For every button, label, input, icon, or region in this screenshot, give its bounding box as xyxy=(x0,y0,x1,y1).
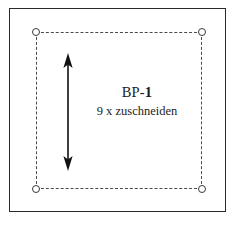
piece-label-block: BP-1 9 x zuschneiden xyxy=(78,84,196,119)
pattern-sheet: BP-1 9 x zuschneiden xyxy=(0,0,237,226)
corner-marker-bottom-left xyxy=(32,185,40,193)
piece-number: 1 xyxy=(145,84,152,100)
piece-title: BP-1 xyxy=(78,84,196,101)
corner-marker-top-right xyxy=(198,28,206,36)
piece-prefix: BP- xyxy=(122,84,145,100)
corner-marker-top-left xyxy=(32,28,40,36)
quantity-note: 9 x zuschneiden xyxy=(78,103,196,119)
corner-marker-bottom-right xyxy=(198,185,206,193)
